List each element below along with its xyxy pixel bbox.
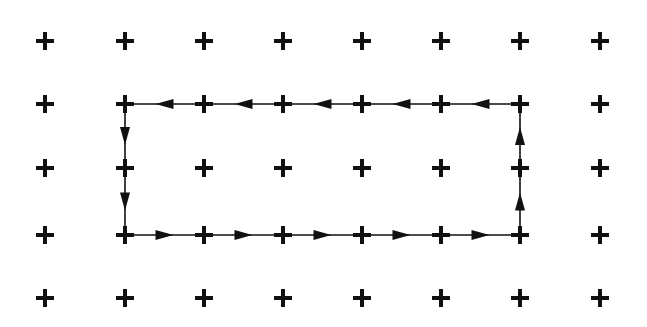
loop-edge [204, 99, 283, 109]
plus-icon [432, 226, 450, 244]
lattice-diagram [0, 0, 647, 327]
plus-icon [274, 226, 292, 244]
plus-icon [353, 226, 371, 244]
loop-edge [283, 99, 362, 109]
lattice-loop-figure [0, 0, 647, 327]
loop-edge [362, 99, 441, 109]
plus-icon [591, 289, 609, 307]
loop-edge [283, 230, 362, 240]
plus-icon [511, 95, 529, 113]
plus-icon [274, 95, 292, 113]
plus-icon [432, 289, 450, 307]
plus-icon [591, 32, 609, 50]
arrow-icon [156, 230, 174, 240]
lattice-points [36, 32, 609, 307]
loop-edge [204, 230, 283, 240]
plus-icon [195, 159, 213, 177]
arrow-icon [120, 193, 130, 211]
plus-icon [116, 226, 134, 244]
arrow-icon [314, 230, 332, 240]
plus-icon [591, 226, 609, 244]
arrow-icon [393, 230, 411, 240]
plus-icon [353, 289, 371, 307]
loop-edge [441, 230, 520, 240]
arrow-icon [472, 99, 490, 109]
plus-icon [432, 95, 450, 113]
plus-icon [36, 95, 54, 113]
arrow-icon [515, 193, 525, 211]
arrow-icon [515, 127, 525, 145]
plus-icon [274, 289, 292, 307]
plus-icon [432, 159, 450, 177]
plus-icon [36, 32, 54, 50]
loop-path [120, 99, 525, 240]
loop-edge [362, 230, 441, 240]
plus-icon [195, 289, 213, 307]
loop-edge [441, 99, 520, 109]
plus-icon [353, 32, 371, 50]
arrow-icon [235, 99, 253, 109]
arrow-icon [314, 99, 332, 109]
arrow-icon [235, 230, 253, 240]
plus-icon [274, 159, 292, 177]
loop-edge [120, 168, 130, 235]
plus-icon [511, 32, 529, 50]
plus-icon [195, 32, 213, 50]
plus-icon [116, 95, 134, 113]
arrow-icon [393, 99, 411, 109]
plus-icon [116, 159, 134, 177]
plus-icon [511, 289, 529, 307]
loop-edge [125, 230, 204, 240]
plus-icon [432, 32, 450, 50]
plus-icon [195, 95, 213, 113]
plus-icon [195, 226, 213, 244]
plus-icon [511, 226, 529, 244]
plus-icon [116, 289, 134, 307]
plus-icon [591, 95, 609, 113]
plus-icon [591, 159, 609, 177]
loop-edge [515, 104, 525, 168]
plus-icon [36, 159, 54, 177]
loop-edge [515, 168, 525, 235]
plus-icon [116, 32, 134, 50]
arrow-icon [156, 99, 174, 109]
loop-edge [120, 104, 130, 168]
arrow-icon [120, 127, 130, 145]
arrow-icon [472, 230, 490, 240]
loop-edge [125, 99, 204, 109]
plus-icon [353, 95, 371, 113]
plus-icon [511, 159, 529, 177]
plus-icon [36, 226, 54, 244]
plus-icon [36, 289, 54, 307]
plus-icon [274, 32, 292, 50]
plus-icon [353, 159, 371, 177]
